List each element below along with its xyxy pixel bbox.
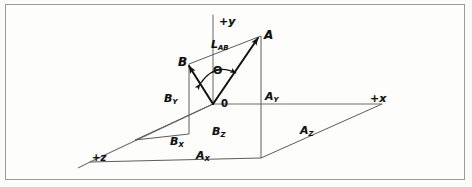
component-az-label: AZ (300, 125, 313, 136)
component-ay-label: AY (265, 91, 278, 102)
diagram-page: +y +x +z 0 A B Θ LAB AY AX AZ BY BX BZ (0, 0, 472, 187)
az-edge (261, 104, 382, 158)
diagram-canvas (0, 0, 472, 187)
construction-lines (78, 36, 382, 168)
component-az-sub: Z (309, 130, 314, 138)
component-ax-base: A (196, 149, 205, 162)
y-axis-label: +y (219, 16, 235, 27)
segment-lab-sub: AB (218, 44, 228, 52)
vector-b-shaft (189, 66, 213, 104)
component-by-label: BY (164, 93, 177, 104)
component-bx-sub: X (178, 141, 183, 149)
vector-b-label: B (178, 56, 187, 68)
segment-lab-base: L (211, 38, 218, 51)
component-ay-base: A (265, 90, 274, 103)
vector-a-label: A (264, 29, 273, 41)
component-ax-sub: X (205, 155, 210, 163)
origin-label: 0 (221, 99, 228, 109)
base-front-edge (90, 158, 261, 162)
z-axis-extension (78, 162, 90, 168)
x-axis-label: +x (370, 93, 386, 104)
component-bz-sub: Z (220, 131, 225, 139)
z-axis-label: +z (92, 153, 106, 163)
component-az-base: A (300, 124, 309, 137)
angle-theta-label: Θ (213, 65, 222, 76)
component-ay-sub: Y (274, 96, 279, 104)
component-by-sub: Y (172, 98, 177, 106)
component-ax-label: AX (196, 150, 210, 161)
component-bz-label: BZ (212, 126, 225, 137)
axes-group (90, 15, 382, 162)
component-bx-label: BX (170, 136, 184, 147)
segment-lab-label: LAB (211, 39, 228, 50)
